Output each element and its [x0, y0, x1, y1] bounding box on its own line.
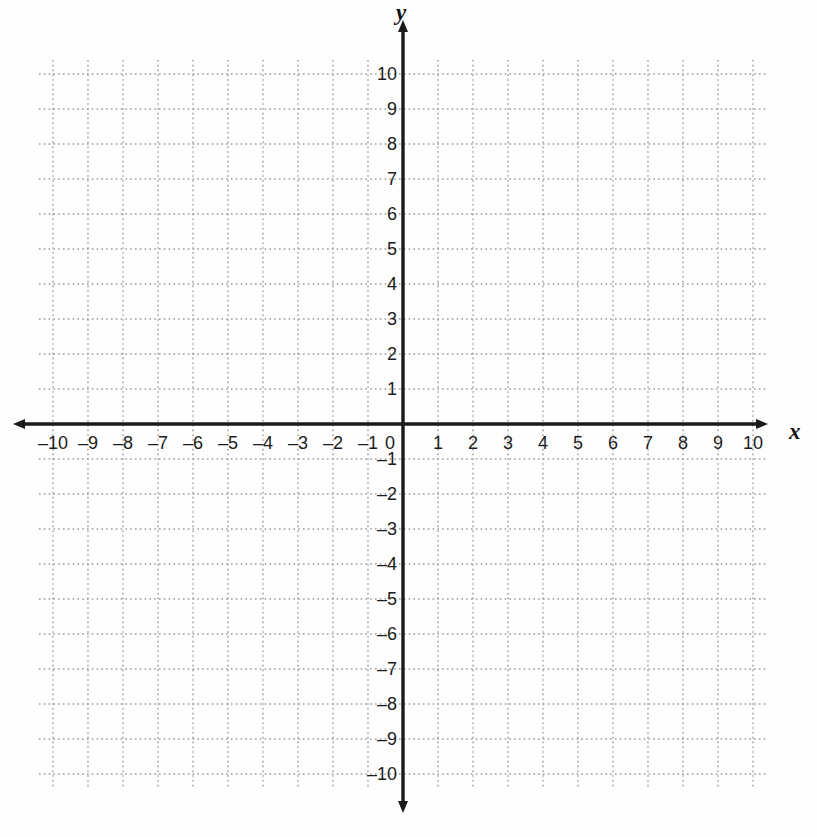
y-tick-label: 8 — [0, 135, 397, 153]
y-tick-label: 2 — [0, 345, 397, 363]
x-tick-label: 8 — [678, 434, 688, 452]
x-tick-label: 10 — [743, 434, 763, 452]
origin-label: 0 — [385, 434, 395, 452]
x-tick-label: 9 — [713, 434, 723, 452]
y-tick-label: 5 — [0, 240, 397, 258]
x-tick-label: 1 — [433, 434, 443, 452]
y-tick-label: –5 — [0, 590, 397, 608]
y-tick-label: –1 — [0, 450, 397, 468]
y-tick-label: –3 — [0, 520, 397, 538]
y-tick-label: –6 — [0, 625, 397, 643]
y-tick-label: –2 — [0, 485, 397, 503]
y-tick-label: –7 — [0, 660, 397, 678]
coordinate-plane: –10–9–8–7–6–5–4–3–2–11234567891010987654… — [0, 0, 817, 837]
y-tick-label: 9 — [0, 100, 397, 118]
x-tick-label: 6 — [608, 434, 618, 452]
y-axis-label: y — [396, 1, 406, 24]
y-tick-label: 3 — [0, 310, 397, 328]
x-tick-label: 4 — [538, 434, 548, 452]
y-tick-label: –10 — [0, 765, 397, 783]
y-tick-label: –9 — [0, 730, 397, 748]
x-tick-label: 7 — [643, 434, 653, 452]
y-tick-label: –8 — [0, 695, 397, 713]
x-axis-label: x — [789, 420, 801, 443]
x-tick-label: 3 — [503, 434, 513, 452]
y-tick-label: 10 — [0, 65, 397, 83]
y-tick-label: 7 — [0, 170, 397, 188]
x-tick-label: 2 — [468, 434, 478, 452]
y-tick-label: 6 — [0, 205, 397, 223]
y-tick-label: –4 — [0, 555, 397, 573]
y-tick-label: 4 — [0, 275, 397, 293]
y-tick-label: 1 — [0, 380, 397, 398]
x-tick-label: 5 — [573, 434, 583, 452]
